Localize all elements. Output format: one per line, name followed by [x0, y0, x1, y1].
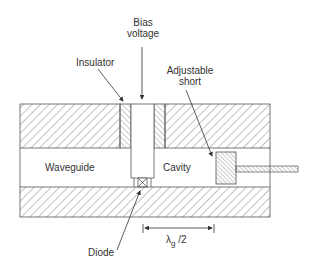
bias-post — [131, 104, 154, 178]
diode-element — [134, 178, 151, 187]
bias-voltage-label: Bias voltage — [123, 17, 163, 39]
diagram-canvas: Bias voltage Insulator Adjustable short … — [0, 0, 315, 271]
insulator-right — [154, 104, 165, 148]
adjustable-short-rod — [236, 166, 298, 172]
bias-voltage-label-line2: voltage — [123, 28, 163, 39]
half-wavelength-dimension — [143, 224, 214, 233]
bias-voltage-label-line1: Bias — [123, 17, 163, 28]
cavity-label: Cavity — [163, 162, 191, 173]
adjustable-short-label-line1: Adjustable — [160, 65, 220, 76]
adjustable-short-block — [216, 152, 236, 184]
insulator-left — [120, 104, 131, 148]
waveguide-label: Waveguide — [45, 162, 95, 173]
diagram-drawing — [0, 0, 315, 271]
top-wall-right — [165, 104, 270, 148]
bottom-wall — [20, 187, 270, 217]
half-wavelength-label: λg /2 — [166, 234, 187, 249]
adjustable-short-label-line2: short — [160, 76, 220, 87]
insulator-arrow — [98, 69, 123, 101]
top-wall-left — [20, 104, 120, 148]
diode-label: Diode — [88, 247, 114, 258]
insulator-label: Insulator — [76, 57, 114, 68]
adjustable-short-label: Adjustable short — [160, 65, 220, 87]
lambda-suffix: /2 — [175, 234, 186, 245]
